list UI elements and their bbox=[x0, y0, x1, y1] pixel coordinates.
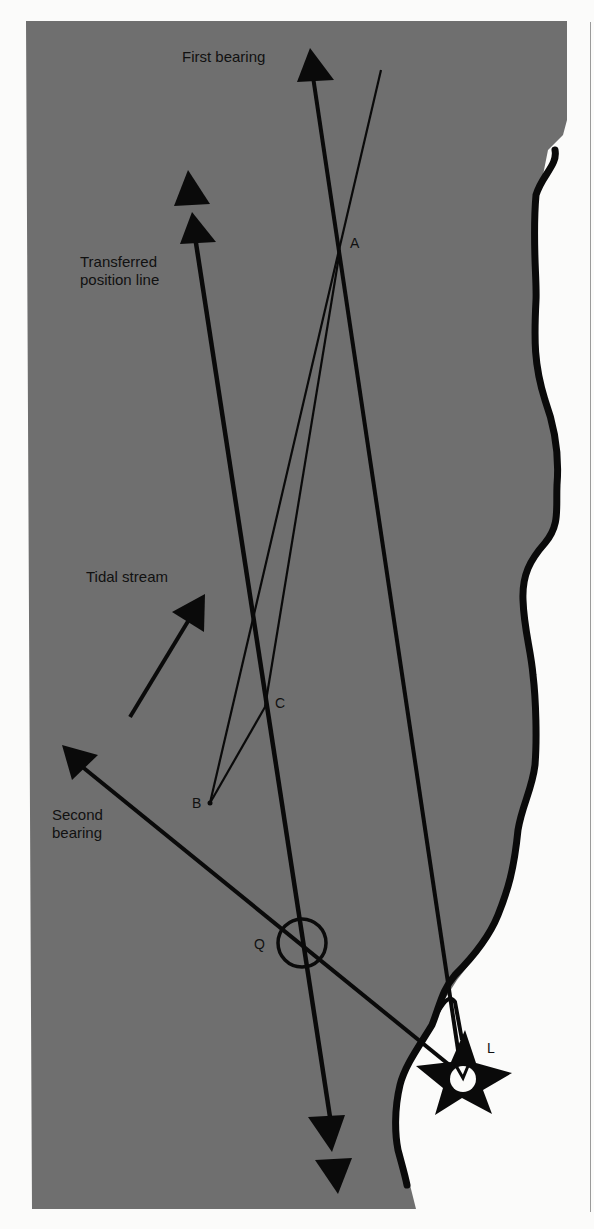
label-transferred-line-1: Transferred bbox=[80, 253, 159, 271]
point-label-c: C bbox=[275, 695, 285, 711]
label-transferred-line-2: position line bbox=[80, 271, 159, 289]
sea-area bbox=[26, 21, 567, 1209]
point-label-l: L bbox=[487, 1040, 495, 1056]
label-second-bearing-2: bearing bbox=[52, 824, 103, 842]
point-label-a: A bbox=[350, 235, 359, 251]
label-second-bearing-1: Second bbox=[52, 806, 103, 824]
point-label-b: B bbox=[192, 795, 201, 811]
point-label-q: Q bbox=[254, 936, 265, 952]
page-edge-rule bbox=[590, 22, 591, 1212]
label-first-bearing: First bearing bbox=[182, 48, 265, 66]
label-transferred-position-line: Transferred position line bbox=[80, 253, 159, 289]
label-second-bearing: Second bearing bbox=[52, 806, 103, 842]
point-b-dot bbox=[208, 801, 213, 806]
label-tidal-stream: Tidal stream bbox=[86, 568, 168, 586]
navigation-diagram bbox=[0, 0, 594, 1229]
